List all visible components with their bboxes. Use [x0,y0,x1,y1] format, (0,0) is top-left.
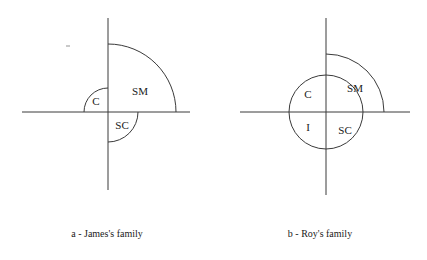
diagram-b-group: C SM I SC [240,18,410,195]
diagram-a-group: C SM SC [22,18,190,190]
caption-diagram-b: b - Roy's family [213,228,427,239]
diagram-b-label-sc: SC [338,124,351,136]
diagram-a-label-c: C [92,95,99,107]
diagram-b-label-c: C [304,88,311,100]
diagram-b-label-sm: SM [347,82,363,94]
diagram-canvas: C SM SC C SM I SC [0,0,427,260]
diagram-b-label-i: I [306,121,310,133]
diagram-a-label-sm: SM [132,85,148,97]
caption-diagram-a: a - James's family [0,228,214,239]
scan-artifact-speck [66,45,70,47]
figure-container: C SM SC C SM I SC a - James's family b -… [0,0,427,260]
diagram-a-arc-sm [108,44,176,112]
diagram-a-label-sc: SC [115,119,128,131]
